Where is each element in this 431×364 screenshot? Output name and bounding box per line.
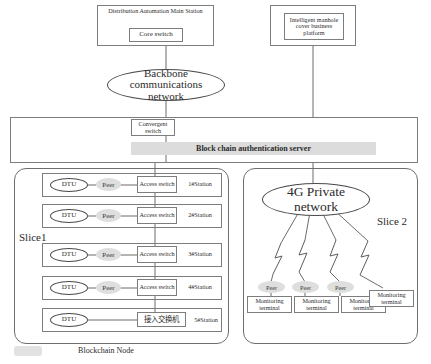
distribution-automation-main-station-title: Distribution Automation Main Station [98, 6, 213, 15]
access-switch-4: Access switch [137, 279, 177, 296]
dtu-ellipse-5: DTU [50, 313, 88, 327]
station-label-1: 1#Station [182, 179, 218, 190]
scan-artifact-smudge [14, 346, 42, 356]
network-layer-container [10, 117, 418, 163]
core-switch-box: Core switch [129, 28, 183, 42]
dtu-ellipse-4: DTU [50, 281, 88, 295]
peer-node-2: Peer [96, 209, 121, 222]
blockchain-authentication-server-band: Block chain authentication server [131, 142, 376, 155]
station-label-3: 3#Station [182, 249, 218, 260]
monitoring-terminal-2: Monitoring terminal [294, 296, 339, 313]
station-label-5: 5#Station [189, 315, 223, 326]
peer-node-3: Peer [96, 248, 121, 261]
slice2-label: Slice 2 [369, 214, 415, 228]
peer-node-terminal-2: Peer [292, 281, 319, 293]
station-label-4: 4#Station [182, 282, 218, 293]
monitoring-terminal-1: Monitoring terminal [247, 296, 292, 313]
access-switch-1: Access switch [137, 176, 177, 193]
convergent-switch-box: Convergent switch [131, 119, 175, 136]
dtu-ellipse-1: DTU [50, 178, 88, 192]
slice1-label: Slice1 [16, 230, 56, 244]
access-switch-3: Access switch [137, 246, 177, 263]
diagram-canvas: Distribution Automation Main Station Cor… [0, 0, 431, 364]
backbone-communications-network-cloud: Backbone communications network [107, 69, 225, 101]
intelligent-manhole-cover-platform-box: Intelligent manhole cover business platf… [284, 13, 344, 40]
access-switch-5: 接入交换机 [137, 312, 186, 327]
peer-node-1: Peer [96, 178, 121, 191]
intelligent-manhole-cover-platform-outer: Intelligent manhole cover business platf… [270, 5, 356, 46]
monitoring-terminal-4: Monitoring terminal [369, 290, 414, 307]
4g-private-network-cloud: 4G Private network [262, 183, 370, 216]
access-switch-2: Access switch [137, 207, 177, 224]
peer-node-terminal-1: Peer [258, 281, 285, 293]
dtu-ellipse-3: DTU [50, 248, 88, 262]
peer-node-4: Peer [96, 281, 121, 294]
station-label-2: 2#Station [182, 210, 218, 221]
peer-node-terminal-3: Peer [327, 281, 354, 293]
dtu-ellipse-2: DTU [50, 209, 88, 223]
blockchain-node-label: Blockchain Node [76, 340, 136, 362]
